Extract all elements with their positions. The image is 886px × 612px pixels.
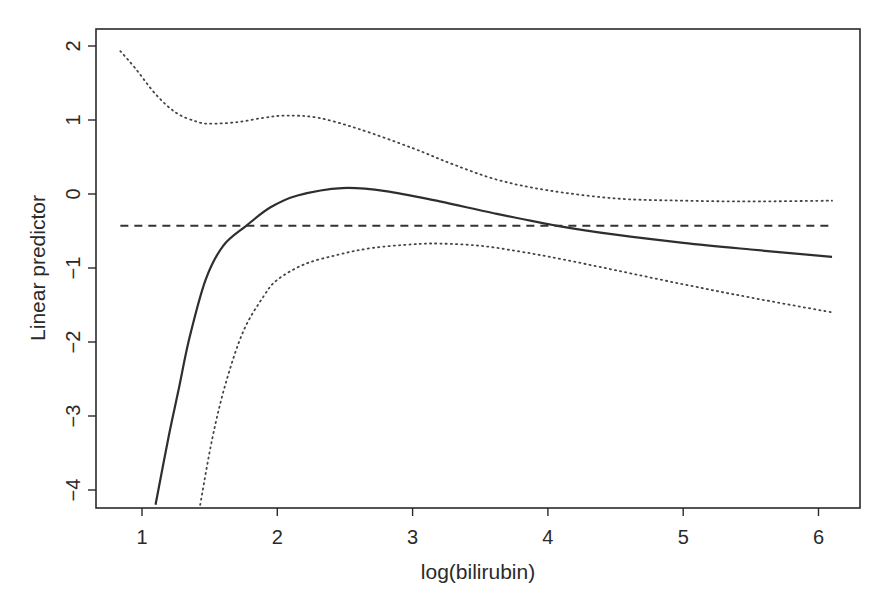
y-axis-title: Linear predictor (26, 195, 49, 341)
x-tick-label: 4 (542, 526, 553, 548)
x-tick-label: 2 (272, 526, 283, 548)
series-upper-confidence-limit (120, 51, 832, 201)
x-tick-label: 6 (813, 526, 824, 548)
x-tick-label: 3 (407, 526, 418, 548)
y-tick-label: −3 (62, 405, 84, 428)
data-series (120, 51, 832, 505)
y-tick-label: 2 (62, 40, 84, 51)
x-tick-label: 5 (678, 526, 689, 548)
x-axis: 123456 (136, 508, 824, 548)
y-tick-label: −2 (62, 331, 84, 354)
y-axis: −4−3−2−1012 (62, 40, 96, 501)
chart: 123456 −4−3−2−1012 log(bilirubin) Linear… (0, 0, 886, 612)
y-tick-label: −1 (62, 257, 84, 280)
series-estimated-effect (156, 188, 833, 505)
cropped-caption-fragment (0, 600, 886, 612)
series-lower-confidence-limit (200, 243, 832, 504)
x-axis-title: log(bilirubin) (421, 560, 535, 583)
y-tick-label: 0 (62, 188, 84, 199)
y-tick-label: 1 (62, 114, 84, 125)
y-tick-label: −4 (62, 479, 84, 502)
x-tick-label: 1 (136, 526, 147, 548)
